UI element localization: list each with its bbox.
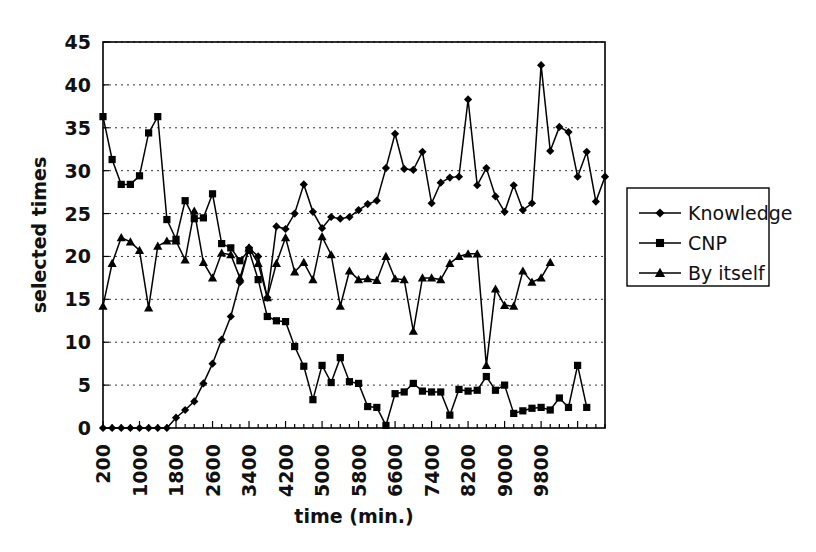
- data-point-square: [538, 404, 545, 411]
- data-point-square: [373, 404, 380, 411]
- x-tick-label: 6600: [384, 444, 406, 497]
- data-point-square: [583, 404, 590, 411]
- data-point-square: [346, 378, 353, 385]
- chart-figure: 051015202530354045 200100018002600340042…: [0, 0, 816, 552]
- data-point-square: [118, 181, 125, 188]
- y-tick-label: 25: [65, 203, 91, 225]
- data-point-square: [519, 407, 526, 414]
- y-tick-label: 40: [65, 74, 91, 96]
- data-point-square: [109, 156, 116, 163]
- data-point-square: [574, 362, 581, 369]
- y-tick-label: 0: [78, 417, 91, 439]
- data-point-square: [328, 379, 335, 386]
- data-point-square: [410, 380, 417, 387]
- x-tick-label: 5800: [348, 444, 370, 497]
- data-point-square: [510, 410, 517, 417]
- data-point-square: [145, 129, 152, 136]
- data-point-square: [464, 388, 471, 395]
- y-tick-label: 30: [65, 160, 91, 182]
- y-tick-label: 20: [65, 245, 91, 267]
- data-point-square: [163, 216, 170, 223]
- x-tick-label: 2600: [202, 444, 224, 497]
- data-point-square: [556, 394, 563, 401]
- data-point-square: [428, 388, 435, 395]
- data-point-square: [455, 386, 462, 393]
- x-tick-label: 9800: [530, 444, 552, 497]
- data-point-square: [236, 257, 243, 264]
- x-axis-title: time (min.): [294, 505, 413, 527]
- data-point-square: [355, 380, 362, 387]
- x-tick-label: 1800: [165, 444, 187, 497]
- y-tick-label: 45: [65, 31, 91, 53]
- x-tick-label: 9000: [494, 444, 516, 497]
- data-point-square: [282, 318, 289, 325]
- data-point-square: [273, 317, 280, 324]
- data-point-square: [200, 214, 207, 221]
- data-point-square: [501, 382, 508, 389]
- data-point-square: [300, 363, 307, 370]
- x-tick-label: 200: [92, 444, 114, 484]
- y-tick-label: 35: [65, 117, 91, 139]
- data-point-square: [474, 387, 481, 394]
- line-chart: 051015202530354045 200100018002600340042…: [0, 0, 816, 552]
- data-point-square: [483, 373, 490, 380]
- y-axis-title: selected times: [28, 157, 50, 314]
- data-point-square: [127, 181, 134, 188]
- data-point-square: [391, 390, 398, 397]
- y-tick-label: 10: [65, 331, 91, 353]
- x-tick-label: 3400: [238, 444, 260, 497]
- data-point-square: [401, 388, 408, 395]
- data-point-square: [209, 190, 216, 197]
- x-tick-label: 1000: [129, 444, 151, 497]
- data-point-square: [318, 362, 325, 369]
- data-point-square: [364, 403, 371, 410]
- data-point-square: [291, 343, 298, 350]
- data-point-square: [99, 113, 106, 120]
- data-point-square: [309, 396, 316, 403]
- data-point-square: [437, 388, 444, 395]
- data-point-square: [255, 276, 262, 283]
- data-point-square: [182, 197, 189, 204]
- data-point-square: [528, 405, 535, 412]
- x-tick-label: 4200: [275, 444, 297, 497]
- data-point-square: [419, 388, 426, 395]
- data-point-square: [218, 240, 225, 247]
- y-tick-label: 5: [78, 374, 91, 396]
- x-tick-label: 8200: [457, 444, 479, 497]
- y-tick-label: 15: [65, 288, 91, 310]
- square-icon: [656, 239, 664, 247]
- data-point-square: [136, 172, 143, 179]
- chart-legend: KnowledgeCNPBy itself: [627, 188, 792, 286]
- data-point-square: [337, 354, 344, 361]
- legend-label: CNP: [688, 232, 727, 254]
- legend-label: By itself: [688, 262, 766, 284]
- data-point-square: [547, 406, 554, 413]
- data-point-square: [565, 404, 572, 411]
- x-tick-label: 5000: [311, 444, 333, 497]
- x-tick-label: 7400: [421, 444, 443, 497]
- data-point-square: [382, 422, 389, 429]
- data-point-square: [264, 313, 271, 320]
- data-point-square: [492, 387, 499, 394]
- data-point-square: [446, 412, 453, 419]
- data-point-square: [154, 113, 161, 120]
- legend-label: Knowledge: [688, 202, 792, 224]
